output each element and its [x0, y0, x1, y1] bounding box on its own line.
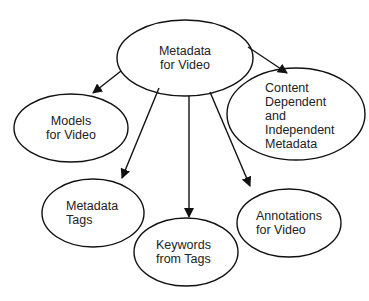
label-models: Models for Video [31, 114, 111, 142]
label-content: Content Dependent and Independent Metada… [265, 81, 355, 151]
edge-root-content [248, 47, 287, 73]
label-root: Metadata for Video [145, 44, 225, 72]
edge-root-models [93, 71, 121, 93]
label-tags: Metadata Tags [66, 199, 146, 227]
label-annotations: Annotations for Video [256, 209, 346, 237]
edge-root-annotations [210, 92, 250, 186]
label-keywords: Keywords from Tags [156, 238, 236, 266]
